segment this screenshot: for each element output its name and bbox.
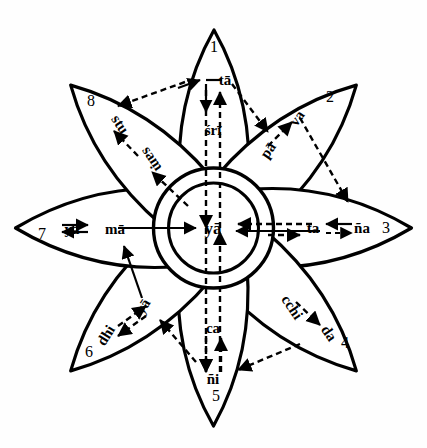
petal-7-inner-label: mā bbox=[105, 221, 125, 237]
petal-number-8: 8 bbox=[87, 92, 95, 109]
petal-5-outer-label: ñi bbox=[207, 371, 220, 387]
petal-1-outer-label: tā bbox=[219, 72, 232, 88]
petal-number-3: 3 bbox=[382, 219, 390, 236]
petal-number-4: 4 bbox=[341, 334, 349, 351]
petal-7-outer-label: yā bbox=[65, 221, 81, 237]
petal-3-inner-label: ta bbox=[307, 220, 320, 236]
petal-3-outer-label: ña bbox=[354, 220, 370, 236]
petal-number-1: 1 bbox=[210, 38, 218, 55]
petal-5-inner-label: ca bbox=[206, 320, 221, 336]
petal-number-2: 2 bbox=[326, 88, 334, 105]
arrow-ta-to-stu-region bbox=[118, 82, 185, 106]
lotus-svg-canvas: 1 2 3 4 5 6 7 8 yā tā śrī va pā ta ña cc… bbox=[0, 0, 427, 448]
petal-number-5: 5 bbox=[212, 387, 220, 404]
petal-number-6: 6 bbox=[85, 343, 93, 360]
petal-1-inner-label: śrī bbox=[205, 122, 222, 138]
lotus-diagram-figure: 1 2 3 4 5 6 7 8 yā tā śrī va pā ta ña cc… bbox=[0, 0, 427, 448]
arrow-da-to-ni bbox=[238, 344, 300, 370]
petal-number-7: 7 bbox=[38, 225, 46, 242]
center-label: yā bbox=[205, 219, 223, 238]
